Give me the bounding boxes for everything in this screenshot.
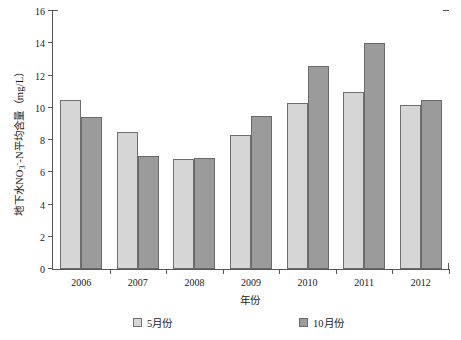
y-axis-tick xyxy=(48,204,53,205)
legend-swatch-icon xyxy=(133,318,142,327)
y-axis-tick xyxy=(48,75,53,76)
y-axis-tick-label: 12 xyxy=(35,70,45,81)
bar-chart: 地下水NO3--N平均含量（mg/L） 02468101214162006200… xyxy=(0,0,461,340)
plot-area: 0246810121416200620072008200920102011201… xyxy=(52,11,449,270)
y-axis-tick-label: 10 xyxy=(35,102,45,113)
y-axis-title-superscript: - xyxy=(13,163,22,166)
x-axis-tick xyxy=(223,269,224,274)
x-axis-tick-label: 2009 xyxy=(241,277,261,288)
y-axis-tick xyxy=(48,236,53,237)
x-axis-tick xyxy=(279,269,280,274)
x-axis-tick-label: 2006 xyxy=(71,277,91,288)
bar-2006-10月份 xyxy=(81,117,102,269)
y-axis-title-subscript: 3 xyxy=(18,165,27,169)
y-axis-tick xyxy=(48,42,53,43)
bar-2011-5月份 xyxy=(343,92,364,269)
bar-2010-10月份 xyxy=(308,66,329,269)
legend-swatch-icon xyxy=(299,318,308,327)
bar-2008-10月份 xyxy=(194,158,215,269)
x-axis-tick xyxy=(166,269,167,274)
bar-2011-10月份 xyxy=(364,43,385,269)
y-axis-tick-label: 8 xyxy=(40,135,45,146)
x-axis-tick-label: 2007 xyxy=(128,277,148,288)
y-axis-tick-label: 16 xyxy=(35,6,45,17)
bar-2006-5月份 xyxy=(60,100,81,269)
x-axis-tick xyxy=(392,269,393,274)
y-axis-tick-label: 2 xyxy=(40,231,45,242)
y-axis-title-post: -N平均含量（mg/L） xyxy=(14,66,25,162)
y-axis-tick-label: 6 xyxy=(40,167,45,178)
bar-2010-5月份 xyxy=(287,103,308,269)
bar-2007-5月份 xyxy=(117,132,138,269)
x-axis-tick-label: 2008 xyxy=(184,277,204,288)
y-axis-title: 地下水NO3--N平均含量（mg/L） xyxy=(10,6,26,276)
x-axis-title: 年份 xyxy=(52,292,448,307)
bar-2012-10月份 xyxy=(421,100,442,269)
y-axis-title-pre: 地下水NO xyxy=(14,169,25,215)
legend-item-10月份[interactable]: 10月份 xyxy=(299,315,344,330)
y-axis-tick xyxy=(48,107,53,108)
bar-2007-10月份 xyxy=(138,156,159,269)
legend-item-5月份[interactable]: 5月份 xyxy=(133,315,172,330)
legend-label: 10月份 xyxy=(313,315,344,330)
x-axis-tick xyxy=(336,269,337,274)
x-axis-tick-label: 2011 xyxy=(354,277,374,288)
bar-2012-5月份 xyxy=(400,105,421,269)
y-axis-tick xyxy=(48,139,53,140)
y-axis-tick xyxy=(48,171,53,172)
chart-legend: 5月份10月份 xyxy=(52,315,448,331)
legend-label: 5月份 xyxy=(147,315,172,330)
x-axis-tick xyxy=(449,269,450,274)
x-axis-tick xyxy=(110,269,111,274)
y-axis-tick-label: 0 xyxy=(40,264,45,275)
axis-frame-top-right-stub xyxy=(443,10,449,11)
x-axis-tick-label: 2012 xyxy=(411,277,431,288)
y-axis-tick-label: 4 xyxy=(40,199,45,210)
bar-2009-10月份 xyxy=(251,116,272,269)
x-axis-tick-label: 2010 xyxy=(298,277,318,288)
bar-2009-5月份 xyxy=(230,135,251,269)
bar-2008-5月份 xyxy=(173,159,194,269)
y-axis-tick xyxy=(48,268,53,269)
y-axis-tick xyxy=(48,10,53,11)
y-axis-tick-label: 14 xyxy=(35,38,45,49)
